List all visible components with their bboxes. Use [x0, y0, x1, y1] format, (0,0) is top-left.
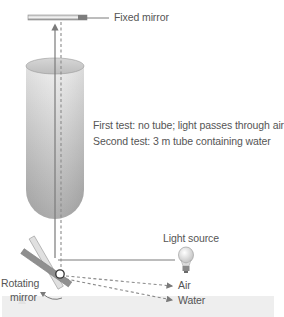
- second-test-label: Second test: 3 m tube containing water: [93, 135, 271, 147]
- fixed-mirror: [28, 15, 109, 20]
- fixed-mirror-label: Fixed mirror: [114, 11, 169, 23]
- water-label: Water: [178, 294, 205, 306]
- first-test-label: First test: no tube; light passes throug…: [93, 119, 284, 131]
- rotating-mirror-label-1: Rotating: [1, 277, 39, 289]
- light-source-label: Light source: [163, 232, 219, 244]
- light-bulb-icon: [179, 247, 194, 273]
- reflected-paths: [66, 276, 172, 300]
- rotation-arrow-icon: [40, 292, 62, 299]
- rotating-mirror-label-2: mirror: [10, 291, 37, 303]
- diagram-canvas: [0, 0, 284, 317]
- air-label: Air: [178, 279, 191, 291]
